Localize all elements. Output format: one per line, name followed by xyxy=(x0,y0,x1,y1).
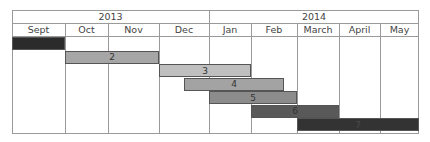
task-bar: 1 xyxy=(12,37,65,50)
gantt-chart: 20132014SeptOctNovDecJanFebMarchAprilMay… xyxy=(12,10,419,133)
task-bar: 6 xyxy=(251,105,339,118)
grid-line xyxy=(12,23,419,24)
grid-line xyxy=(65,23,66,133)
month-header: March xyxy=(297,23,339,36)
year-header: 2013 xyxy=(12,10,209,23)
grid-line xyxy=(380,23,381,133)
task-bar: 2 xyxy=(65,51,159,64)
grid-line xyxy=(12,133,419,134)
month-header: Jan xyxy=(209,23,251,36)
grid-line xyxy=(418,10,419,133)
task-bar: 4 xyxy=(184,78,284,91)
year-header: 2014 xyxy=(209,10,419,23)
task-bar: 5 xyxy=(209,91,297,104)
month-header: May xyxy=(380,23,419,36)
month-header: Sept xyxy=(12,23,65,36)
month-header: Feb xyxy=(251,23,297,36)
month-header: April xyxy=(339,23,380,36)
grid-line xyxy=(159,23,160,133)
month-header: Dec xyxy=(159,23,209,36)
task-bar: 7 xyxy=(297,118,419,131)
grid-line xyxy=(12,10,419,11)
grid-line xyxy=(108,23,109,133)
month-header: Oct xyxy=(65,23,108,36)
grid-line xyxy=(12,10,13,133)
month-header: Nov xyxy=(108,23,159,36)
task-bar: 3 xyxy=(159,64,251,77)
grid-line xyxy=(12,36,419,37)
grid-line xyxy=(339,23,340,133)
